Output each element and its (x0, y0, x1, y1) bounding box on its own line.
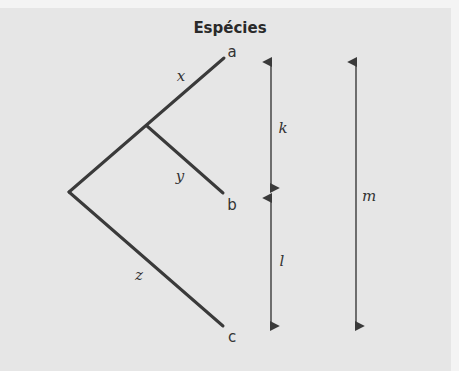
tree-branches (69, 58, 224, 326)
branch-internal-to-b (147, 126, 223, 193)
arrow-label-k: k (278, 119, 287, 137)
arrow-label-l: l (280, 252, 285, 270)
tip-label-a: a (227, 43, 236, 61)
tip-label-c: c (228, 328, 236, 346)
phylogenetic-tree-diagram: Espécies a b c x y z k l m (0, 0, 459, 371)
arrow-label-m: m (362, 187, 376, 205)
branch-label-z: z (134, 266, 143, 284)
branch-label-x: x (177, 67, 186, 85)
branch-label-y: y (175, 167, 185, 185)
branch-root-to-c (69, 192, 223, 326)
distance-arrows (271, 62, 356, 326)
diagram-title: Espécies (193, 19, 266, 37)
tip-label-b: b (227, 196, 237, 214)
